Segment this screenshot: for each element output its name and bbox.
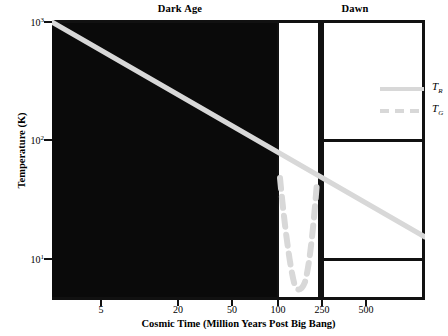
y-tick-label-100: 102 (0, 134, 44, 146)
legend-row-TG: TG (380, 102, 448, 124)
y-axis-label: Temperature (K) (16, 71, 27, 231)
region-title-dawn: Dawn (300, 3, 410, 14)
legend-swatch-solid-icon (380, 87, 424, 91)
legend-row-TR: TR (380, 80, 448, 102)
x-tick-label-250: 250 (302, 304, 342, 315)
legend-label-TR: TR (432, 80, 442, 95)
y-tick-label-10: 101 (0, 253, 44, 265)
series-line-TG (280, 178, 317, 289)
legend-label-TG: TG (432, 102, 443, 117)
y-tick-label-1000: 103 (0, 16, 44, 28)
x-tick-label-50: 50 (212, 304, 252, 315)
y-tick-text: 10 (31, 254, 41, 265)
x-tick-label-5: 5 (81, 304, 121, 315)
legend-swatch-dashed-icon (380, 109, 424, 113)
x-axis-label: Cosmic Time (Million Years Post Big Bang… (52, 318, 425, 329)
x-tick-label-20: 20 (158, 304, 198, 315)
x-tick-label-100: 100 (258, 304, 298, 315)
legend-label-sub: R (438, 87, 442, 95)
y-tick-mark-1000 (44, 21, 52, 23)
y-tick-text: 10 (31, 135, 41, 146)
x-tick-label-500: 500 (346, 304, 386, 315)
series-line-TR (52, 22, 425, 237)
legend-label-sub: G (438, 109, 443, 117)
y-tick-text: 10 (31, 17, 41, 28)
y-tick-mark-100 (44, 139, 52, 141)
plot-area: TR TG (52, 20, 425, 300)
legend: TR TG (380, 80, 448, 124)
data-layer (52, 20, 425, 300)
y-tick-mark-10 (44, 258, 52, 260)
region-title-dark-age: Dark Age (120, 3, 240, 14)
